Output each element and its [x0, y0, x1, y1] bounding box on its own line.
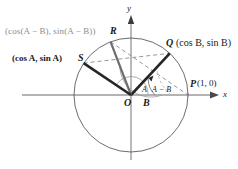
origin-label: O	[124, 98, 131, 108]
unit-circle-diagram: (cos(A − B), sin(A − B)) R (cos A, sin A…	[0, 0, 238, 169]
angle-b-label: B	[143, 98, 150, 108]
point-r-label: R	[110, 26, 117, 36]
angle-a-label: A	[142, 86, 147, 94]
point-q-coords-label: (cos B, sin B)	[176, 38, 231, 48]
point-r-coords-label: (cos(A − B), sin(A − B))	[5, 27, 96, 36]
point-s-coords-label: (cos A, sin A)	[12, 54, 62, 63]
x-axis-label: x	[223, 90, 227, 99]
point-p-coords-label: (1, 0)	[197, 79, 217, 88]
y-axis-label: y	[127, 4, 131, 13]
point-q-label: Q	[166, 38, 173, 48]
chord-s-q	[84, 53, 170, 63]
angle-a-minus-b-label: A − B	[152, 86, 171, 94]
point-s-label: S	[78, 53, 84, 63]
point-p-label: P	[190, 79, 196, 89]
x-axis	[22, 92, 219, 99]
